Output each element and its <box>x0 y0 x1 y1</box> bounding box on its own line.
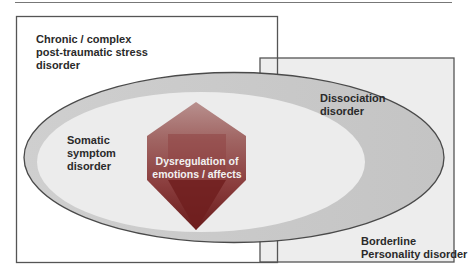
ptsd-label: Chronic / complex post-traumatic stress … <box>36 33 148 72</box>
dysregulation-label: Dysregulation of emotions / affects <box>150 155 244 181</box>
dysregulation-label-line1: Dysregulation of <box>150 155 244 168</box>
ptsd-label-line1: Chronic / complex <box>36 33 148 46</box>
somatic-label-line3: disorder <box>67 160 116 173</box>
dissociation-label-line2: disorder <box>320 105 385 118</box>
ptsd-label-line2: post-traumatic stress <box>36 46 148 59</box>
borderline-label: Borderline Personality disorder <box>361 235 467 261</box>
somatic-label-line2: symptom <box>67 147 116 160</box>
ptsd-label-line3: disorder <box>36 59 148 72</box>
borderline-label-line1: Borderline <box>361 235 467 248</box>
dissociation-label: Dissociation disorder <box>320 92 385 118</box>
diagram-canvas: Chronic / complex post-traumatic stress … <box>0 0 468 278</box>
somatic-label-line1: Somatic <box>67 134 116 147</box>
dissociation-label-line1: Dissociation <box>320 92 385 105</box>
somatic-label: Somatic symptom disorder <box>67 134 116 173</box>
dysregulation-label-line2: emotions / affects <box>150 168 244 181</box>
borderline-label-line2: Personality disorder <box>361 248 467 261</box>
